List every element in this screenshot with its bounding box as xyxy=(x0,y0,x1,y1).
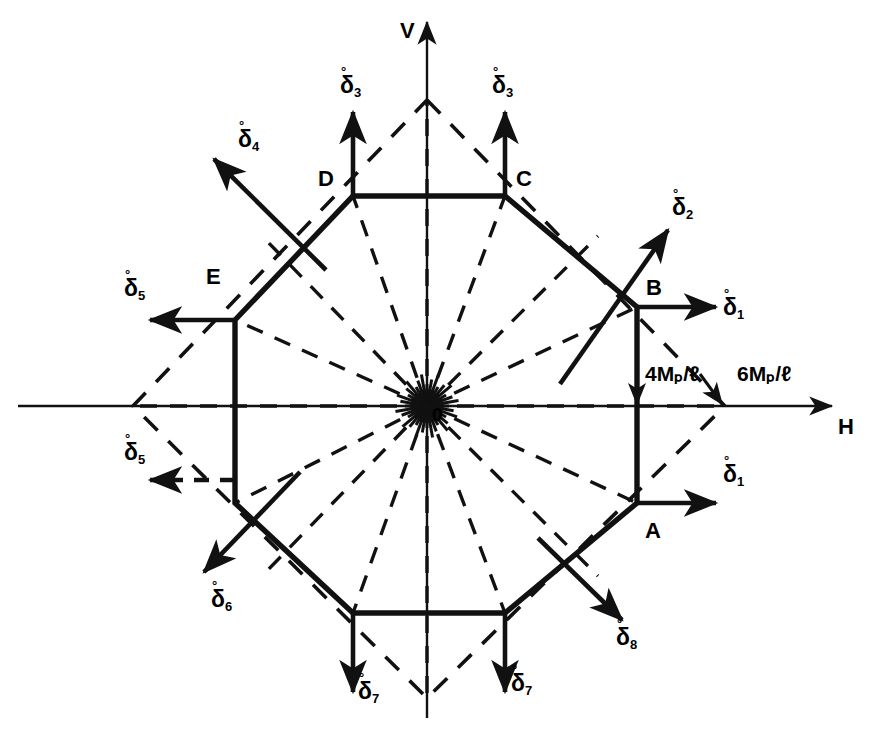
delta-subscript: 7 xyxy=(372,691,379,706)
label-delta2: °δ2 xyxy=(672,196,693,219)
vertex-label-d: D xyxy=(318,166,334,192)
delta-accent-ring: ° xyxy=(125,432,129,445)
delta-subscript: 4 xyxy=(252,139,259,154)
delta-subscript: 6 xyxy=(225,599,232,614)
delta-accent-ring: ° xyxy=(673,187,677,200)
delta-subscript: 1 xyxy=(737,307,744,322)
delta-subscript: 3 xyxy=(354,85,361,100)
vertex-label-b: B xyxy=(646,275,662,301)
delta-subscript: 5 xyxy=(138,288,145,303)
delta-accent-ring: ° xyxy=(239,119,243,132)
tick-6mp xyxy=(700,374,722,404)
dimension-label-outer: 6Mₚ/ℓ xyxy=(737,362,791,386)
interaction-diagram-figure: V H 0 A B C D E 4Mₚ/ℓ 6Mₚ/ℓ °δ1 °δ1 °δ2 … xyxy=(0,0,876,736)
vector-delta4 xyxy=(214,159,326,270)
delta-accent-ring: ° xyxy=(724,454,728,467)
label-delta4: °δ4 xyxy=(238,128,259,151)
delta-accent-ring: ° xyxy=(617,617,621,630)
delta-subscript: 7 xyxy=(525,683,532,698)
delta-subscript: 1 xyxy=(737,474,744,489)
h-axis-label: H xyxy=(838,414,854,440)
delta-accent-ring: ° xyxy=(125,268,129,281)
delta-accent-ring: ° xyxy=(359,671,363,684)
delta-accent-ring: ° xyxy=(512,663,516,676)
vertex-label-a: A xyxy=(645,518,661,544)
delta-accent-ring: ° xyxy=(212,579,216,592)
dimension-label-inner: 4Mₚ/ℓ xyxy=(645,362,699,386)
label-delta7-left: °δ7 xyxy=(358,680,379,703)
label-delta8: °δ8 xyxy=(616,626,637,649)
delta-accent-ring: ° xyxy=(341,65,345,78)
delta-subscript: 8 xyxy=(630,637,637,652)
label-delta5-upper: °δ5 xyxy=(124,277,145,300)
delta-accent-ring: ° xyxy=(493,65,497,78)
label-delta3-right: °δ3 xyxy=(492,74,513,97)
label-delta1-lower: °δ1 xyxy=(723,463,744,486)
vertex-label-c: C xyxy=(516,166,532,192)
label-delta6: °δ6 xyxy=(211,588,232,611)
label-delta5-lower: °δ5 xyxy=(124,441,145,464)
delta-subscript: 5 xyxy=(138,452,145,467)
vertex-label-e: E xyxy=(206,264,221,290)
delta-subscript: 2 xyxy=(686,207,693,222)
label-delta3-left: °δ3 xyxy=(340,74,361,97)
label-delta7-right: °δ7 xyxy=(511,672,532,695)
origin-label: 0 xyxy=(432,404,443,426)
label-delta1-upper: °δ1 xyxy=(723,296,744,319)
delta-subscript: 3 xyxy=(506,85,513,100)
delta-accent-ring: ° xyxy=(724,287,728,300)
v-axis-label: V xyxy=(400,18,415,44)
vector-delta6 xyxy=(204,472,300,572)
